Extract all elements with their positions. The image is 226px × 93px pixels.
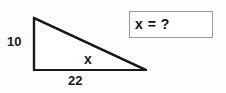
answer-box-text: x = ? <box>135 17 170 31</box>
vertical-leg-label: 10 <box>7 35 21 48</box>
diagram-canvas: 10 22 x x = ? <box>0 0 226 93</box>
answer-box: x = ? <box>129 11 213 38</box>
horizontal-leg-label: 22 <box>68 74 82 87</box>
hypotenuse-label: x <box>84 52 92 66</box>
